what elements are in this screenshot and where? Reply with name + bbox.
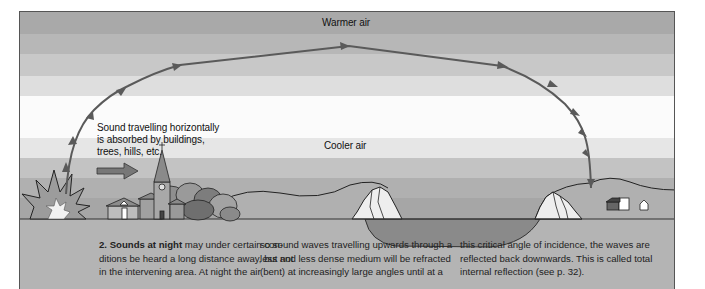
air-band-3: [20, 54, 675, 76]
horizontal-label-line-3: trees, hills, etc.: [97, 146, 267, 158]
horizontal-label-line-1: Sound travelling horizontally: [97, 122, 267, 134]
horizontal-sound-label: Sound travelling horizontally is absorbe…: [97, 122, 267, 158]
caption-1-line-2: ditions be heard a long distance away, b…: [99, 252, 285, 266]
horizontal-label-line-2: is absorbed by buildings,: [97, 134, 267, 146]
air-band-2: [20, 34, 675, 54]
caption-column-3: this critical angle of incidence, the wa…: [460, 238, 646, 279]
caption-2-line-3: (bent) at increasingly large angles unti…: [260, 265, 446, 279]
caption-3-line-1: this critical angle of incidence, the wa…: [460, 238, 646, 252]
caption-heading: 2. Sounds at night: [99, 239, 182, 250]
caption-3-line-2: reflected back downwards. This is called…: [460, 252, 646, 266]
caption-1-line-1: 2. Sounds at night may under certain con…: [99, 238, 285, 252]
caption-2-line-2: less and less dense medium will be refra…: [260, 252, 446, 266]
warmer-air-label: Warmer air: [322, 17, 370, 28]
air-band-4: [20, 76, 675, 96]
cooler-air-label: Cooler air: [324, 140, 366, 151]
caption-column-2: so sound waves travelling upwards throug…: [260, 238, 446, 279]
caption-column-1: 2. Sounds at night may under certain con…: [99, 238, 285, 279]
diagram-frame: Warmer air Cooler air Sound travelling h…: [19, 11, 675, 289]
caption-3-line-3: internal reflection (see p. 32).: [460, 265, 646, 279]
caption-2-line-1: so sound waves travelling upwards throug…: [260, 238, 446, 252]
caption-1-line-3: in the intervening area. At night the ai…: [99, 265, 285, 279]
